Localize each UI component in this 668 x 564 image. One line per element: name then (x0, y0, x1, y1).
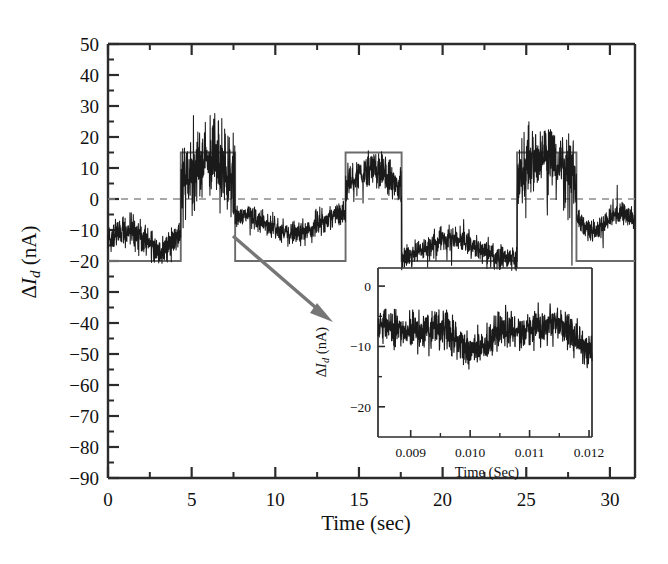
x-tick-label: 10 (266, 489, 285, 510)
inset-y-axis-label-group: ΔId (nA) (313, 327, 331, 378)
main-y-axis-label-group: ΔId (nA) (17, 226, 43, 299)
y-tick-label: 40 (80, 65, 99, 86)
inset-ylabel-units: (nA) (313, 327, 330, 358)
main-x-axis-label: Time (sec) (321, 511, 411, 535)
inset-x-tick-label: 0.011 (515, 445, 545, 460)
y-tick-label: −30 (69, 282, 99, 303)
inset-x-tick-label: 0.010 (455, 445, 486, 460)
inset-x-tick-label: 0.012 (574, 445, 604, 460)
chart-canvas: 50403020100−10−20−30−40−50−60−70−80−90 0… (0, 0, 668, 564)
y-tick-label: 0 (90, 189, 100, 210)
main-ylabel-units: (nA) (17, 226, 41, 271)
x-tick-label: 0 (103, 489, 113, 510)
inset-y-tick-label: −20 (350, 400, 371, 415)
y-tick-label: −80 (69, 437, 99, 458)
y-tick-label: −60 (69, 375, 99, 396)
y-tick-label: −10 (69, 220, 99, 241)
inset-x-axis-label: Time (Sec) (455, 464, 519, 481)
y-tick-label: −20 (69, 251, 99, 272)
inset-y-tick-label: −10 (350, 339, 371, 354)
inset-y-tick-label: 0 (364, 279, 371, 294)
y-tick-label: 50 (80, 34, 99, 55)
y-tick-label: −50 (69, 344, 99, 365)
main-y-axis-label: ΔId (nA) (17, 226, 43, 299)
y-tick-label: −40 (69, 313, 99, 334)
main-ylabel-delta: Δ (17, 285, 41, 299)
inset-ylabel-delta: Δ (313, 368, 329, 377)
figure-panel: 50403020100−10−20−30−40−50−60−70−80−90 0… (0, 0, 668, 564)
x-tick-label: 5 (187, 489, 197, 510)
x-tick-label: 30 (600, 489, 619, 510)
x-tick-label: 15 (349, 489, 368, 510)
y-tick-label: 30 (80, 96, 99, 117)
y-tick-label: 20 (80, 127, 99, 148)
y-tick-label: −70 (69, 406, 99, 427)
x-tick-label: 20 (433, 489, 452, 510)
inset-y-axis-label: ΔId (nA) (313, 327, 331, 378)
inset-x-tick-label: 0.009 (396, 445, 427, 460)
y-tick-label: −90 (69, 468, 99, 489)
figure-background (0, 0, 668, 564)
x-tick-label: 25 (517, 489, 536, 510)
y-tick-label: 10 (80, 158, 99, 179)
